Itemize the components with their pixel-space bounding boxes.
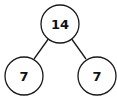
root-node: 14	[41, 5, 79, 43]
right-connector-line	[71, 38, 86, 59]
right-child-node: 7	[78, 57, 116, 95]
number-bond-diagram: 14 7 7	[0, 0, 117, 97]
left-connector-line	[34, 38, 49, 59]
left-child-node: 7	[5, 57, 43, 95]
right-child-value: 7	[92, 69, 101, 84]
root-value: 14	[51, 17, 69, 32]
left-child-value: 7	[19, 69, 28, 84]
